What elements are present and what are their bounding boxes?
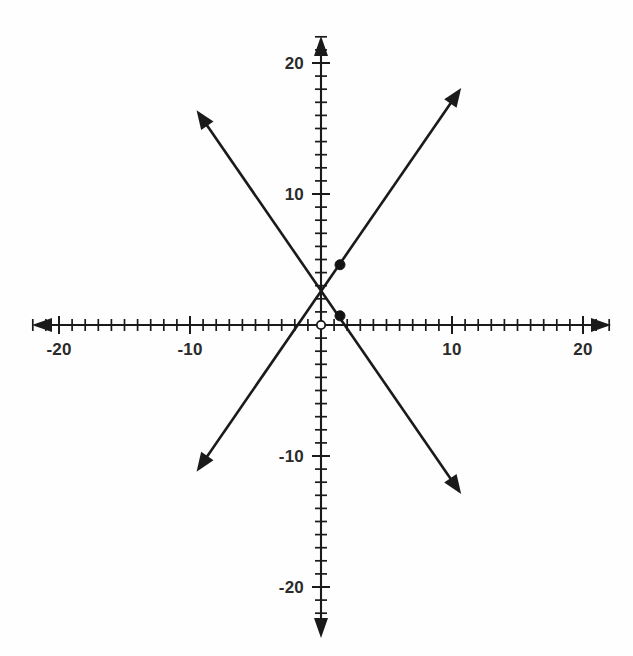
open-point-origin — [317, 321, 325, 329]
x-axis-label-10: 10 — [442, 340, 461, 359]
x-axis-label--20: -20 — [46, 340, 71, 359]
y-axis-up-arrow-icon — [314, 36, 328, 56]
closed-point-upper — [335, 260, 345, 270]
y-axis-label--20: -20 — [279, 578, 304, 597]
function-lines — [197, 88, 462, 494]
y-axis-down-arrow-icon — [314, 618, 328, 638]
falling-line-end-arrow-icon — [444, 474, 461, 494]
x-axis-label--10: -10 — [177, 340, 202, 359]
y-axis-label-20: 20 — [285, 54, 304, 73]
y-axis-label--10: -10 — [279, 447, 304, 466]
rising-line-start-arrow-icon — [197, 452, 214, 472]
falling-line-start-arrow-icon — [197, 110, 214, 130]
rising-line — [204, 99, 453, 460]
closed-point-lower — [335, 311, 345, 321]
coordinate-plane-figure: -20-1010202010-10-20 — [0, 0, 633, 656]
x-axis-right-arrow-icon — [591, 318, 611, 332]
x-axis-label-20: 20 — [573, 340, 592, 359]
x-axis-left-arrow-icon — [32, 318, 52, 332]
falling-line — [204, 122, 453, 483]
rising-line-end-arrow-icon — [444, 88, 461, 108]
graph-canvas: -20-1010202010-10-20 — [0, 0, 633, 656]
y-axis-label-10: 10 — [285, 185, 304, 204]
